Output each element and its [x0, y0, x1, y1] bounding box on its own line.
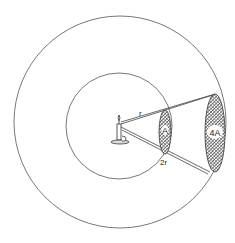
radius-r-label: r — [139, 109, 142, 118]
area-4a-label: 4A — [209, 128, 220, 138]
area-a-label: A — [162, 126, 168, 136]
area-4a-ellipse: 4A — [205, 94, 225, 172]
area-a-ellipse: A — [159, 110, 171, 154]
outer-sphere-circle — [14, 16, 226, 228]
radius-2r-label: 2r — [160, 158, 167, 167]
inverse-square-diagram: A 4A r 2r — [0, 0, 235, 243]
